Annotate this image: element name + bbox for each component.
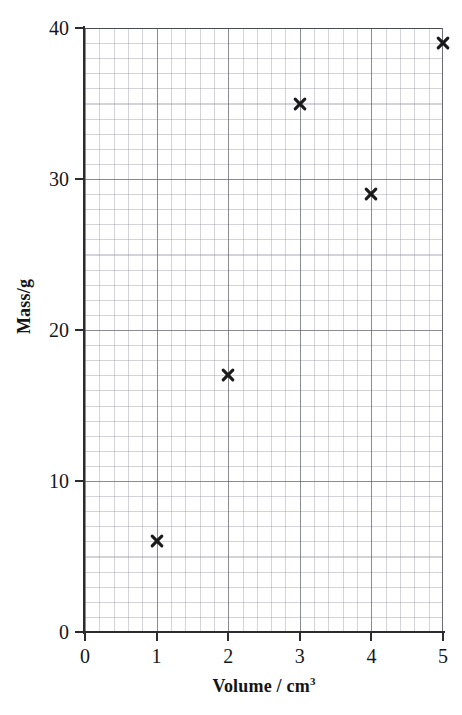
scatter-chart-figure: 010203040 012345 Volume / cm3 Mass/g [0, 0, 462, 715]
y-axis-tick-label: 0 [21, 622, 69, 642]
y-axis-tick [75, 480, 84, 482]
plot-grid-area [85, 28, 443, 632]
y-axis-tick [75, 178, 84, 180]
x-axis-tick [370, 632, 372, 641]
x-axis-tick-label: 5 [423, 645, 462, 667]
x-axis-tick [227, 632, 229, 641]
x-axis-tick [442, 632, 444, 641]
x-axis-tick-label: 2 [208, 645, 248, 667]
y-axis-tick-label: 40 [21, 18, 69, 38]
x-axis-tick-label: 3 [280, 645, 320, 667]
x-axis-line [83, 631, 445, 633]
y-axis-title: Mass/g [14, 247, 35, 367]
y-axis-tick-label: 30 [21, 169, 69, 189]
x-axis-tick [156, 632, 158, 641]
x-axis-title-exponent: 3 [310, 675, 316, 687]
y-axis-tick [75, 329, 84, 331]
x-axis-tick [84, 632, 86, 641]
y-axis-tick [75, 631, 84, 633]
x-axis-title: Volume / cm3 [85, 676, 443, 697]
x-axis-tick-label: 4 [351, 645, 391, 667]
x-axis-tick-label: 1 [137, 645, 177, 667]
x-axis-tick-label: 0 [65, 645, 105, 667]
x-axis-tick [299, 632, 301, 641]
plot-top-border [85, 28, 443, 29]
y-axis-tick-label: 10 [21, 471, 69, 491]
plot-right-gridline [442, 28, 443, 632]
y-axis-tick [75, 27, 84, 29]
